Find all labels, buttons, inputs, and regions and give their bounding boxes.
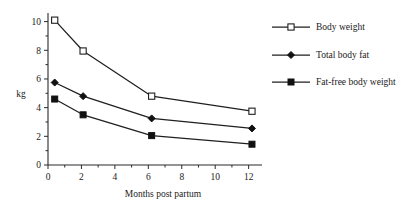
x-tick-label: 8 [179, 172, 184, 182]
y-tick-label: 10 [32, 17, 42, 27]
data-point [80, 93, 87, 100]
y-tick-label: 0 [36, 160, 41, 170]
y-tick-label: 2 [36, 132, 41, 142]
data-point [249, 141, 255, 147]
line-chart: 0246810 024681012 Months post partum kg … [0, 0, 406, 208]
chart-legend: Body weightTotal body fatFat-free body w… [272, 22, 396, 87]
data-point [148, 115, 155, 122]
legend-marker [288, 52, 295, 59]
legend-marker [288, 24, 294, 30]
legend-item-0: Body weight [272, 22, 365, 32]
data-point [52, 17, 58, 23]
x-axis-ticks [48, 165, 249, 169]
data-point [149, 93, 155, 99]
series-line [55, 83, 252, 129]
x-axis-tick-labels: 024681012 [46, 172, 254, 182]
x-axis: 024681012 [46, 165, 262, 182]
data-point [80, 48, 86, 54]
y-tick-label: 4 [36, 103, 41, 113]
x-tick-label: 12 [244, 172, 254, 182]
legend-label: Body weight [316, 22, 365, 32]
y-axis-ticks [44, 22, 48, 165]
x-tick-label: 6 [146, 172, 151, 182]
data-point [52, 96, 58, 102]
data-point [51, 79, 58, 86]
legend-item-2: Fat-free body weight [272, 77, 396, 87]
y-axis-title: kg [16, 89, 26, 99]
series-0 [52, 17, 255, 114]
y-tick-label: 8 [36, 46, 41, 56]
data-point [248, 125, 255, 132]
series-1 [51, 79, 255, 132]
legend-item-1: Total body fat [272, 50, 370, 60]
y-tick-label: 6 [36, 74, 41, 84]
x-tick-label: 4 [113, 172, 118, 182]
data-point [249, 108, 255, 114]
x-axis-title: Months post partum [125, 189, 202, 199]
legend-marker [288, 79, 294, 85]
series-2 [52, 96, 255, 147]
data-point [80, 112, 86, 118]
chart-figure: 0246810 024681012 Months post partum kg … [0, 0, 406, 208]
legend-label: Total body fat [316, 50, 370, 60]
y-axis-tick-labels: 0246810 [32, 17, 42, 170]
legend-label: Fat-free body weight [316, 77, 396, 87]
x-tick-label: 10 [210, 172, 220, 182]
data-point [149, 133, 155, 139]
x-tick-label: 0 [46, 172, 51, 182]
y-axis: 0246810 [32, 13, 49, 170]
x-tick-label: 2 [79, 172, 84, 182]
series-layer [51, 17, 255, 147]
